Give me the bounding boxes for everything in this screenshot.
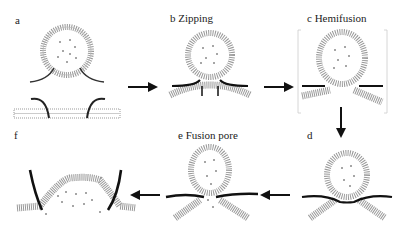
panel-a-vesicle (30, 27, 104, 82)
panel-f-full-fusion (17, 170, 136, 215)
panel-b-zipping (170, 33, 250, 96)
panel-c-hemifusion (298, 30, 387, 113)
panel-a-plasma-membrane (14, 99, 120, 118)
membrane-fusion-diagram (0, 0, 401, 233)
panel-d-diaphragm (302, 153, 392, 218)
panel-e-fusion-pore (166, 147, 258, 218)
